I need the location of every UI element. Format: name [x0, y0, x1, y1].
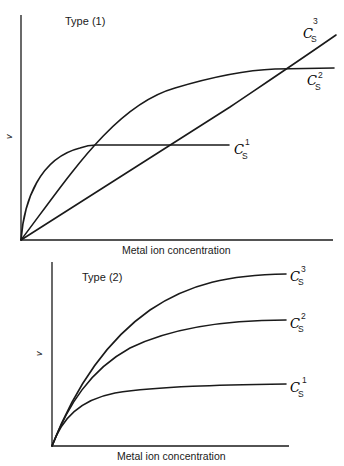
label-cs3: C 3 S [290, 264, 306, 287]
chart-type-2: Type (2) v Metal ion concentration C 3 S… [34, 262, 307, 462]
svg-text:1: 1 [302, 375, 307, 385]
svg-text:2: 2 [318, 70, 323, 80]
svg-text:3: 3 [301, 264, 306, 274]
svg-text:S: S [298, 277, 304, 287]
curve-cs3 [52, 274, 286, 446]
curve-cs1 [52, 384, 286, 446]
label-cs1: C 1 S [234, 137, 250, 161]
chart-type-1: Type (1) v Metal ion concentration C 3 S… [4, 15, 336, 256]
y-axis-label: v [34, 351, 44, 356]
svg-text:S: S [298, 389, 304, 399]
chart-title: Type (1) [65, 15, 105, 27]
label-cs3: C 3 S [303, 16, 318, 44]
svg-text:S: S [242, 151, 248, 161]
curve-cs3 [21, 35, 336, 240]
svg-text:1: 1 [245, 137, 250, 147]
x-axis-label: Metal ion concentration [122, 244, 231, 256]
y-axis-label: v [4, 134, 14, 139]
svg-text:S: S [311, 34, 317, 44]
svg-text:2: 2 [301, 311, 306, 321]
label-cs2: C 2 S [290, 311, 306, 334]
curve-cs1 [21, 145, 229, 240]
label-cs2: C 2 S [307, 70, 323, 92]
curve-cs2 [21, 68, 334, 240]
label-cs1: C 1 S [290, 375, 307, 399]
figure-canvas: Type (1) v Metal ion concentration C 3 S… [0, 0, 344, 466]
x-axis-label: Metal ion concentration [117, 450, 226, 462]
curve-cs2 [52, 320, 286, 446]
svg-text:S: S [298, 324, 304, 334]
chart-title: Type (2) [82, 271, 122, 283]
svg-text:3: 3 [313, 16, 318, 26]
svg-text:S: S [315, 82, 321, 92]
